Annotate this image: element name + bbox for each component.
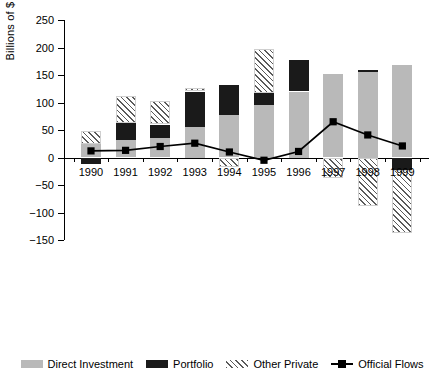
legend-swatch-flows-icon xyxy=(331,360,353,368)
flows-marker-1993 xyxy=(191,140,198,147)
y-tick-label: 100 xyxy=(20,98,54,109)
plot-area: 250200150100500−50−100−150 1990199119921… xyxy=(64,20,429,240)
flows-marker-1995 xyxy=(260,157,267,164)
flows-polyline xyxy=(91,122,402,161)
flows-marker-1998 xyxy=(364,131,371,138)
y-tick-label: −50 xyxy=(20,180,54,191)
y-tick-label: 250 xyxy=(20,15,54,26)
x-tick-label-1999: 1999 xyxy=(382,166,422,178)
flows-marker-1991 xyxy=(122,147,129,154)
y-tick-label: −100 xyxy=(20,208,54,219)
legend-swatch-other-icon xyxy=(226,360,248,368)
legend-swatch-direct-icon xyxy=(21,360,43,368)
legend-item-portfolio[interactable]: Portfolio xyxy=(146,358,213,370)
y-tick-label: 200 xyxy=(20,43,54,54)
legend-item-flows[interactable]: Official Flows xyxy=(331,358,423,370)
legend-item-direct[interactable]: Direct Investment xyxy=(21,358,134,370)
chart-figure: Billions of $ 250200150100500−50−100−150… xyxy=(0,0,444,383)
legend-item-other[interactable]: Other Private xyxy=(226,358,318,370)
legend-label: Official Flows xyxy=(358,358,423,370)
y-tick-label: 0 xyxy=(20,153,54,164)
flows-marker-1997 xyxy=(330,118,337,125)
flows-marker-1992 xyxy=(157,143,164,150)
y-tick-label: 50 xyxy=(20,125,54,136)
y-tick-label: 150 xyxy=(20,70,54,81)
flows-marker-1994 xyxy=(226,148,233,155)
flows-marker-1999 xyxy=(399,142,406,149)
y-tick xyxy=(58,240,64,241)
legend-label: Portfolio xyxy=(173,358,213,370)
flows-marker-1990 xyxy=(87,147,94,154)
y-axis-label: Billions of $ xyxy=(4,0,16,96)
legend-swatch-portfolio-icon xyxy=(146,360,168,368)
legend-label: Other Private xyxy=(253,358,318,370)
chart-legend: Direct InvestmentPortfolioOther PrivateO… xyxy=(0,358,444,370)
flows-marker-1996 xyxy=(295,148,302,155)
y-tick-label: −150 xyxy=(20,235,54,246)
official-flows-line xyxy=(64,20,429,240)
legend-label: Direct Investment xyxy=(48,358,134,370)
